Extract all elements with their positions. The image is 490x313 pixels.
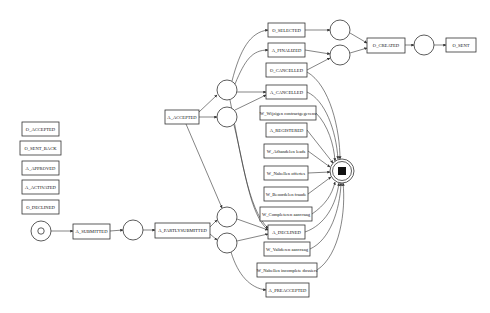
transition-a-registered[interactable]: A_REGISTERED [266,123,307,137]
svg-text:O_DECLINED: O_DECLINED [26,205,55,210]
svg-text:A_APPROVED: A_APPROVED [26,166,57,171]
transition-a-approved[interactable]: A_APPROVED [22,161,59,175]
place-start [31,221,51,241]
svg-text:A_ACTIVATED: A_ACTIVATED [25,185,56,190]
svg-text:O_CREATED: O_CREATED [373,43,400,48]
transition-a-preaccepted[interactable]: A_PREACCEPTED [266,283,309,297]
transition-w-beoordelen-fraude[interactable]: W_Beoordelen fraude [264,187,308,201]
svg-text:A_FINALIZED: A_FINALIZED [272,48,302,53]
transition-o-accepted[interactable]: O_ACCEPTED [22,122,59,136]
transition-w-nabellen-offertes[interactable]: W_Nabellen offertes [264,166,308,180]
transition-w-afhandelen-leads[interactable]: W_Afhandelen leads [264,144,308,158]
place [217,107,237,127]
transition-a-declined[interactable]: A_DECLINED [268,225,305,239]
place [217,233,237,253]
svg-text:W_Afhandelen leads: W_Afhandelen leads [267,149,306,154]
transition-o-cancelled[interactable]: O_CANCELLED [266,63,307,77]
svg-text:W_Nabellen incomplete dossiers: W_Nabellen incomplete dossiers [257,268,318,273]
svg-text:O_SENT_BACK: O_SENT_BACK [24,146,57,151]
transition-a-cancelled[interactable]: A_CANCELLED [266,85,307,99]
place [217,80,237,100]
transition-a-submitted[interactable]: A_SUBMITTED [73,224,110,239]
edges [51,30,446,290]
place [217,207,237,227]
transition-a-finalized[interactable]: A_FINALIZED [268,43,305,57]
place-end [330,159,354,183]
svg-text:A_SUBMITTED: A_SUBMITTED [76,229,109,234]
transition-w-completeren-aanvraag[interactable]: W_Completeren aanvraag [260,207,312,221]
place [123,220,143,240]
transition-o-declined[interactable]: O_DECLINED [22,200,59,214]
transition-o-sent[interactable]: O_SENT [446,38,476,52]
svg-text:W_Beoordelen fraude: W_Beoordelen fraude [266,192,307,197]
svg-text:O_ACCEPTED: O_ACCEPTED [26,127,56,132]
svg-text:A_ACCEPTED: A_ACCEPTED [167,115,197,120]
transition-a-accepted[interactable]: A_ACCEPTED [165,110,199,124]
transition-a-activated[interactable]: A_ACTIVATED [22,180,59,194]
transition-o-created[interactable]: O_CREATED [367,38,405,53]
transition-o-selected[interactable]: O_SELECTED [268,23,305,37]
transition-o-sent-back[interactable]: O_SENT_BACK [20,141,61,155]
svg-text:O_SENT: O_SENT [452,43,469,48]
svg-text:A_REGISTERED: A_REGISTERED [270,128,304,133]
svg-text:A_PARTLYSUBMITTED: A_PARTLYSUBMITTED [158,228,207,233]
transition-w-wijzigen-contractgegevens[interactable]: W_Wijzigen contractgegevens [260,106,317,120]
transition-w-nabellen-incomplete-dossiers[interactable]: W_Nabellen incomplete dossiers [257,263,318,277]
place [414,35,434,55]
svg-text:A_PREACCEPTED: A_PREACCEPTED [269,288,307,293]
svg-text:A_CANCELLED: A_CANCELLED [270,90,304,95]
svg-text:W_Nabellen offertes: W_Nabellen offertes [267,171,306,176]
svg-text:O_SELECTED: O_SELECTED [272,28,301,33]
svg-text:A_DECLINED: A_DECLINED [272,230,301,235]
place [330,20,350,40]
process-model-canvas: O_ACCEPTED O_SENT_BACK A_APPROVED A_ACTI… [0,0,490,313]
svg-text:W_Wijzigen contractgegevens: W_Wijzigen contractgegevens [260,111,317,116]
transition-w-valideren-aanvraag[interactable]: W_Valideren aanvraag [264,242,310,256]
svg-text:W_Valideren aanvraag: W_Valideren aanvraag [266,247,309,252]
transition-a-partlysubmitted[interactable]: A_PARTLYSUBMITTED [155,223,210,238]
svg-text:O_CANCELLED: O_CANCELLED [270,68,304,73]
place [330,45,350,65]
svg-text:W_Completeren aanvraag: W_Completeren aanvraag [262,212,311,217]
